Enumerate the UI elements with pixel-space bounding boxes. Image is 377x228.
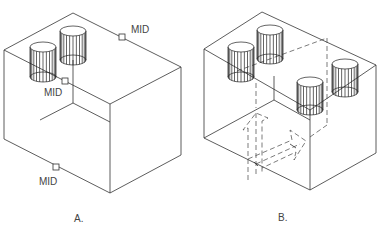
cylinder-top bbox=[60, 26, 86, 36]
cylinder-b1 bbox=[228, 42, 254, 82]
block-a-inner-right bbox=[73, 103, 110, 122]
block-b bbox=[204, 12, 376, 190]
cylinder-a1 bbox=[30, 42, 56, 82]
panel-b-caption: B. bbox=[278, 212, 287, 223]
cylinder-top bbox=[30, 42, 56, 52]
block-b-top-right-edge bbox=[310, 65, 376, 110]
up-arrow-outline bbox=[243, 113, 268, 180]
cylinder-b2 bbox=[257, 25, 283, 64]
block-b-inner-left bbox=[204, 100, 274, 138]
block-b-inner-right bbox=[274, 100, 310, 120]
cylinder-a2 bbox=[60, 26, 86, 65]
block-a-inner-left bbox=[40, 103, 73, 120]
up-arrow bbox=[243, 113, 268, 180]
mid-marker-top: MID bbox=[119, 24, 149, 40]
mid-label: MID bbox=[44, 87, 62, 98]
hidden-edge bbox=[310, 125, 327, 137]
cylinder-top bbox=[297, 77, 323, 87]
block-a-bottom-edges bbox=[4, 139, 181, 193]
panel-a-caption: A. bbox=[74, 213, 83, 224]
mid-marker-center: MID bbox=[44, 78, 68, 98]
cylinder-b4 bbox=[332, 59, 358, 97]
cylinder-top bbox=[257, 25, 283, 35]
block-b-bottom-edges bbox=[204, 138, 376, 190]
mid-label: MID bbox=[131, 24, 149, 35]
right-arrow-outline bbox=[248, 130, 306, 168]
cylinder-top bbox=[332, 59, 358, 69]
mid-snap-box bbox=[62, 78, 68, 84]
cylinder-b3 bbox=[297, 77, 323, 115]
panel-b: B. bbox=[204, 12, 376, 223]
panel-a: MID MID MID A. bbox=[4, 13, 181, 224]
cylinder-top bbox=[228, 42, 254, 52]
mid-snap-box bbox=[53, 164, 59, 170]
mid-snap-box bbox=[119, 34, 125, 40]
drawing-canvas: MID MID MID A. bbox=[0, 0, 377, 228]
mid-label: MID bbox=[39, 176, 57, 187]
right-arrow-axis bbox=[256, 144, 300, 164]
mid-marker-bottom: MID bbox=[39, 164, 59, 187]
block-a bbox=[4, 13, 181, 193]
right-arrow bbox=[248, 130, 306, 168]
